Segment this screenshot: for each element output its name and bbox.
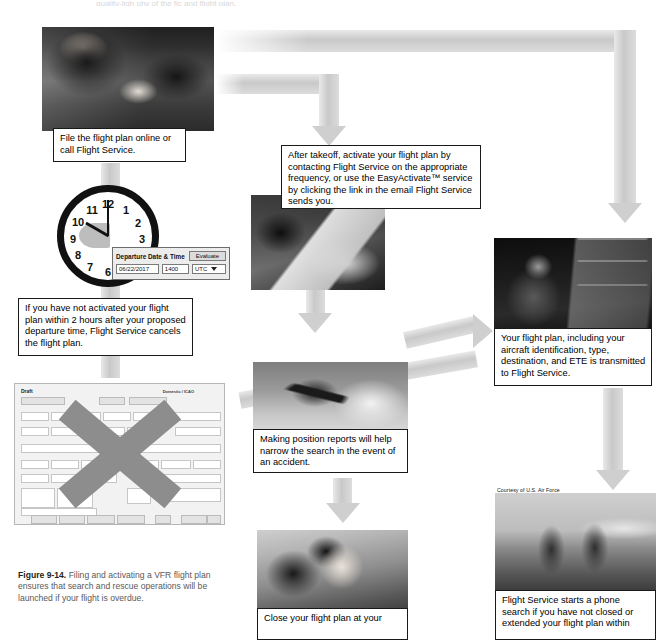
caption-activate-flight-plan: After takeoff, activate your flight plan… xyxy=(281,145,481,209)
caption-phone-search: Flight Service starts a phone search if … xyxy=(495,590,656,640)
figure-number: Figure 9-14. xyxy=(18,570,69,580)
figure-caption: Figure 9-14. Filing and activating a VFR… xyxy=(18,570,233,604)
tablet-in-cockpit-photo xyxy=(251,195,385,290)
person-on-phone-photo xyxy=(257,530,408,614)
clock-number: 11 xyxy=(85,204,99,216)
time-zone-select[interactable]: UTC xyxy=(192,264,226,274)
departure-date-input[interactable]: 06/22/2017 xyxy=(116,264,159,274)
arrowhead-to-close xyxy=(326,503,360,523)
arrow-position-to-close xyxy=(333,478,352,506)
caption-close-flight-plan: Close your flight plan at your xyxy=(257,608,408,640)
arrowhead-to-activate xyxy=(312,126,346,146)
arrow-activate-to-position xyxy=(306,288,325,316)
arrow-service-to-sar xyxy=(603,388,623,474)
chevron-down-icon xyxy=(211,267,217,271)
clock-number: 7 xyxy=(83,261,97,273)
cessna-in-flight-photo xyxy=(253,362,408,429)
clock-number: 3 xyxy=(135,233,149,245)
caption-position-reports: Making position reports will help narrow… xyxy=(253,429,408,473)
arrow-second-down xyxy=(319,74,339,129)
clock-number: 8 xyxy=(71,249,85,261)
form-button-clear[interactable] xyxy=(207,515,221,524)
evaluate-button[interactable]: Evaluate xyxy=(189,251,226,261)
flight-service-specialist-photo xyxy=(494,238,652,334)
figure-canvas: quality-ligh phy of the fic and flight p… xyxy=(0,0,670,640)
cancelled-x-overlay xyxy=(36,385,204,523)
arrowhead-to-flight-service xyxy=(608,203,642,223)
arrow-position-to-service xyxy=(403,316,477,349)
arrowhead-to-position xyxy=(298,313,332,333)
pilot-with-tablet-photo xyxy=(42,27,214,131)
caption-transmitted-to-flight-service: Your flight plan, including your aircraf… xyxy=(494,328,652,386)
form-status-label: Draft xyxy=(21,388,33,394)
departure-widget-title: Departure Date & Time xyxy=(116,253,189,260)
clock-number: 1 xyxy=(119,204,133,216)
clock-number: 10 xyxy=(71,216,85,228)
departure-time-input[interactable]: 1400 xyxy=(162,264,189,274)
search-and-rescue-crew-photo xyxy=(495,493,656,591)
departure-date-time-widget[interactable]: Departure Date & Time Evaluate 06/22/201… xyxy=(112,247,230,280)
clock-number: 9 xyxy=(66,233,80,245)
arrowhead-to-sar xyxy=(596,470,630,490)
clock-number: 2 xyxy=(131,217,145,229)
arrow-top-ribbon xyxy=(216,30,636,52)
cropped-top-text: quality-ligh phy of the fic and flight p… xyxy=(96,0,526,6)
arrowhead-position-to-service xyxy=(473,314,493,348)
clock-minute-hand xyxy=(107,200,109,236)
arrow-right-down-1 xyxy=(614,30,636,206)
caption-not-activated-cancels: If you have not activated your flight pl… xyxy=(18,298,193,356)
caption-file-flight-plan: File the flight plan online or call Flig… xyxy=(53,128,186,162)
arrow-file-to-clock xyxy=(101,163,120,187)
arrow-warning-to-form xyxy=(101,356,120,378)
time-zone-value: UTC xyxy=(195,266,207,272)
